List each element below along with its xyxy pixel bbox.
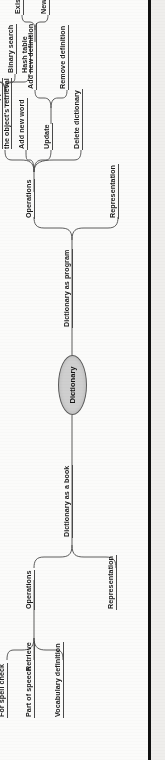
mindmap-canvas: Dictionary Dictionary as a book Operatio… <box>0 0 146 760</box>
node-add-new-definition[interactable]: Add new definition <box>28 23 37 90</box>
root-node-dictionary[interactable]: Dictionary <box>58 355 87 415</box>
node-binary-search[interactable]: Binary search <box>8 24 17 74</box>
edge-ops-retrieve-support <box>5 150 34 172</box>
edge-update-addnewdefinition <box>35 90 51 108</box>
node-add-new-word[interactable]: Add new word <box>19 98 28 150</box>
node-remove-definition[interactable]: Remove definition <box>60 25 69 90</box>
node-book-representation[interactable]: Representation <box>108 555 117 610</box>
root-node-label: Dictionary <box>68 366 77 403</box>
node-new-part-of-speech[interactable]: New part of speech <box>41 0 50 15</box>
retrieve-support-line2: the object's retrieval <box>3 78 13 149</box>
node-existing-part-of-speech[interactable]: Existing part of speech <box>15 0 24 15</box>
edge-book-operations <box>34 545 72 568</box>
node-dictionary-as-program[interactable]: Dictionary as program <box>64 249 73 328</box>
node-part-of-speech[interactable]: Part of speech <box>26 666 35 718</box>
node-delete-dictionary[interactable]: Delete dictionary <box>74 89 83 150</box>
node-retrieve-to-support-object-retrieval[interactable]: Retrieve to support the object's retriev… <box>0 77 13 150</box>
node-dictionary-as-a-book[interactable]: Dictionary as a book <box>64 465 73 538</box>
edge-update-removedefinition <box>51 90 67 108</box>
page-outer-margin <box>151 0 165 760</box>
node-update[interactable]: Update <box>44 123 53 150</box>
mindmap-rotated-wrapper: Dictionary Dictionary as a book Operatio… <box>0 0 146 760</box>
node-program-representation[interactable]: Representation <box>110 164 119 219</box>
edge-ops-deletedictionary <box>34 150 81 172</box>
node-for-spell-check[interactable]: For spell check <box>0 663 8 718</box>
node-program-operations[interactable]: Operations <box>26 179 35 219</box>
edge-program-representation <box>72 217 118 240</box>
node-book-operations[interactable]: Operations <box>26 570 35 610</box>
node-vocabulary-definition[interactable]: Vocabulary definition <box>55 642 64 718</box>
edge-program-operations <box>34 217 72 240</box>
